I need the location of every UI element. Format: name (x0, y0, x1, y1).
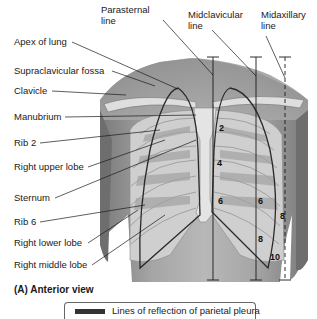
legend: Lines of reflection of parietal pleura (64, 302, 256, 319)
label-apex-of-lung: Apex of lung (14, 36, 67, 47)
rib-number-parasternal-6: 6 (218, 196, 223, 206)
rib-number-midaxillary-10: 10 (270, 252, 280, 262)
rib-number-parasternal-2: 2 (219, 123, 224, 133)
figure-caption: (A) Anterior view (14, 284, 94, 295)
label-parasternal-line: Parasternal line (101, 4, 150, 26)
label-right-upper-lobe: Right upper lobe (14, 161, 84, 172)
label-sternum: Sternum (14, 192, 50, 203)
legend-swatch-pleura-line (75, 309, 105, 314)
label-midclavicular-line: Midclavicular line (188, 9, 243, 31)
label-supraclavicular-fossa: Supraclavicular fossa (14, 65, 104, 76)
rib-number-midclavicular-8: 8 (258, 234, 263, 244)
label-rib-6: Rib 6 (14, 216, 36, 227)
rib-number-midclavicular-6: 6 (258, 196, 263, 206)
rib-number-parasternal-4: 4 (217, 158, 222, 168)
label-manubrium: Manubrium (14, 111, 62, 122)
label-midaxillary-line: Midaxillary line (261, 9, 306, 31)
label-rib-2: Rib 2 (14, 137, 36, 148)
label-clavicle: Clavicle (14, 85, 47, 96)
legend-text: Lines of reflection of parietal pleura (112, 305, 260, 316)
label-right-middle-lobe: Right middle lobe (14, 259, 87, 270)
label-right-lower-lobe: Right lower lobe (14, 237, 82, 248)
rib-number-midaxillary-8: 8 (280, 211, 285, 221)
